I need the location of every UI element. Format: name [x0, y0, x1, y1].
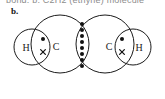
electron-dot-icon — [80, 58, 84, 62]
electron-dot-icon — [80, 22, 84, 26]
electron-dot-icon — [120, 37, 124, 41]
atom-circle-h-right — [115, 29, 151, 65]
electron-cross-icon — [120, 50, 125, 55]
electron-dot-icon — [80, 34, 84, 38]
dot-and-cross-diagram: HCCH — [0, 0, 165, 99]
electron-cross-icon — [41, 50, 46, 55]
electron-dot-icon — [80, 28, 84, 32]
bond-bond-c-c — [80, 22, 84, 68]
bond-bond-h-left-c-left — [41, 37, 46, 54]
atom-circle-h-left — [14, 29, 50, 65]
diagram-canvas: HCCH — [0, 0, 165, 99]
electron-dot-icon — [80, 52, 84, 56]
electron-dot-icon — [41, 37, 45, 41]
electron-dot-icon — [80, 46, 84, 50]
atom-symbol-c-left: C — [53, 41, 60, 52]
atom-symbol-h-right: H — [135, 42, 142, 53]
atom-symbol-h-left: H — [22, 42, 29, 53]
electron-dot-icon — [80, 64, 84, 68]
bond-bond-c-right-h-right — [120, 37, 125, 54]
screenshot-root: bond. b. C2H2 (ethyne) molecule b. HCCH — [0, 0, 165, 99]
electron-dot-icon — [80, 40, 84, 44]
atom-symbol-c-right: C — [106, 41, 113, 52]
